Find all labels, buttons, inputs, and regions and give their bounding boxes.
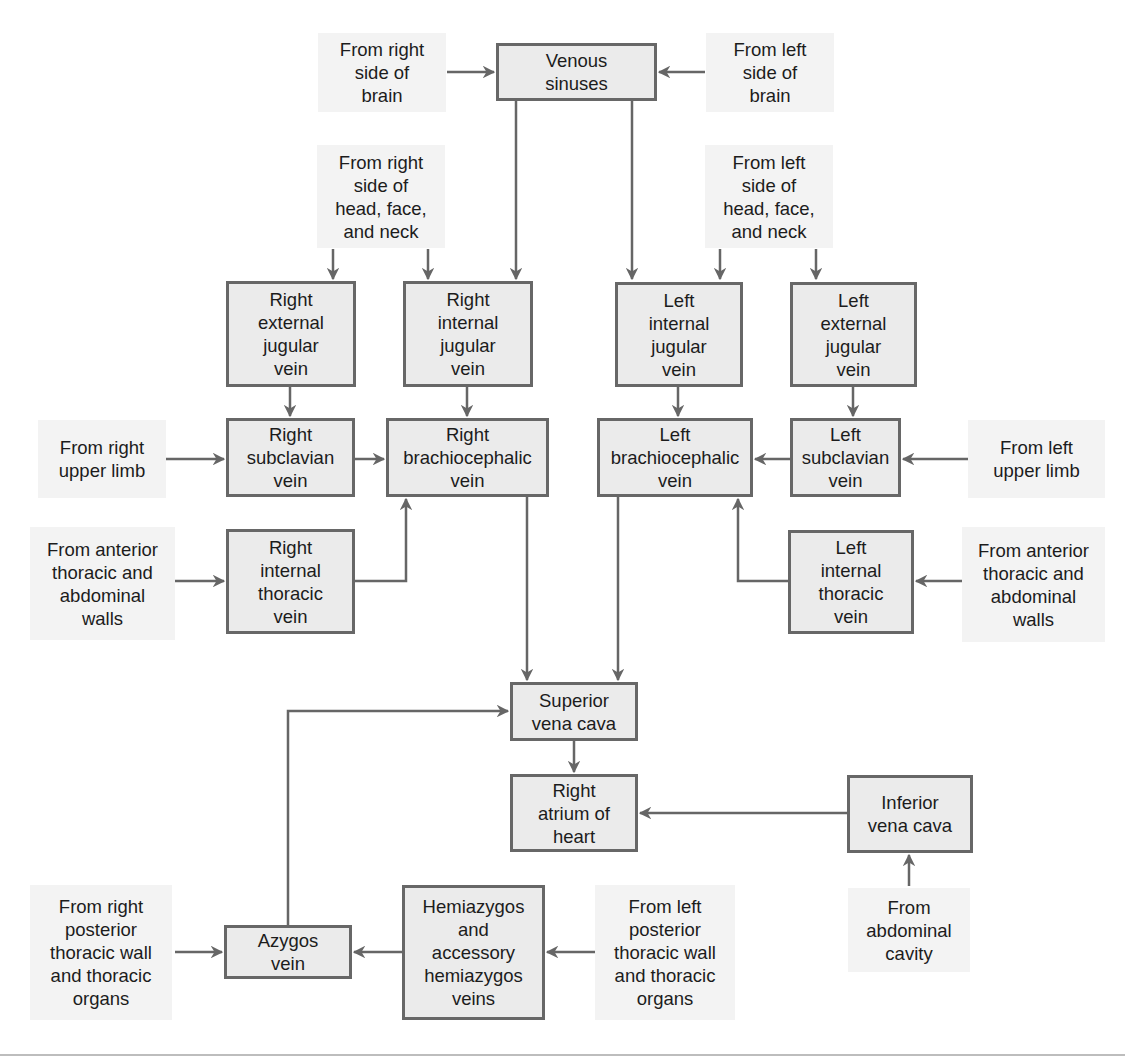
azygos-box: Azygos vein <box>224 925 352 979</box>
source-right-head-face-neck: From right side of head, face, and neck <box>317 145 445 248</box>
source-left-brain: From left side of brain <box>706 33 834 112</box>
right-subclavian-box: Right subclavian vein <box>226 418 355 497</box>
left-brachiocephalic-box: Left brachiocephalic vein <box>597 418 753 497</box>
source-left-upper-limb: From left upper limb <box>968 420 1105 498</box>
source-right-brain: From right side of brain <box>318 33 446 112</box>
hemiazygos-box: Hemiazygos and accessory hemiazygos vein… <box>402 885 545 1020</box>
bottom-divider <box>0 1054 1125 1056</box>
right-internal-jugular-box: Right internal jugular vein <box>403 281 533 387</box>
right-atrium-box: Right atrium of heart <box>510 774 638 852</box>
right-internal-thoracic-box: Right internal thoracic vein <box>226 529 355 634</box>
source-right-upper-limb: From right upper limb <box>38 420 166 498</box>
left-subclavian-box: Left subclavian vein <box>790 418 901 497</box>
left-internal-jugular-box: Left internal jugular vein <box>615 282 743 387</box>
superior-vena-cava-box: Superior vena cava <box>510 682 638 741</box>
inferior-vena-cava-box: Inferior vena cava <box>847 775 973 853</box>
source-left-anterior-walls: From anterior thoracic and abdominal wal… <box>962 527 1105 642</box>
source-right-posterior-thoracic: From right posterior thoracic wall and t… <box>30 885 172 1020</box>
left-external-jugular-box: Left external jugular vein <box>790 282 917 387</box>
source-left-head-face-neck: From left side of head, face, and neck <box>705 145 833 248</box>
source-left-posterior-thoracic: From left posterior thoracic wall and th… <box>595 885 735 1020</box>
source-right-anterior-walls: From anterior thoracic and abdominal wal… <box>30 527 175 640</box>
right-external-jugular-box: Right external jugular vein <box>226 281 356 387</box>
venous-sinuses-box: Venous sinuses <box>496 43 657 101</box>
left-internal-thoracic-box: Left internal thoracic vein <box>788 530 914 634</box>
right-brachiocephalic-box: Right brachiocephalic vein <box>386 418 549 497</box>
source-abdominal-cavity: From abdominal cavity <box>848 888 970 972</box>
